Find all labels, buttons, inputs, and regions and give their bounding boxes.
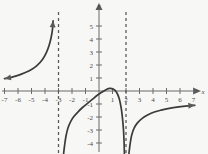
y-tick-label: -2 [87,114,93,122]
function-graph-figure: -7 -6 -5 -4 -3 -2 -1 1 2 3 4 5 6 7 5 4 3… [0,0,208,154]
x-tick-label: 7 [192,96,196,104]
x-tick-label: -6 [15,96,21,104]
curve-arrow-icon [50,21,56,28]
y-tick-label: -4 [87,140,93,148]
curve-left-branch [5,21,54,79]
x-tick-label: 6 [178,96,182,104]
x-axis-label: x [200,88,205,96]
x-tick-label: -5 [29,96,35,104]
x-tick-label: -2 [69,96,75,104]
y-tick-label: 5 [90,23,94,31]
x-tick-label: 5 [165,96,169,104]
y-tick-label: 3 [90,49,94,57]
curve-right-branch [129,105,195,153]
x-tick-label: -7 [2,96,8,104]
x-tick-label: -4 [42,96,48,104]
graph-canvas: -7 -6 -5 -4 -3 -2 -1 1 2 3 4 5 6 7 5 4 3… [0,0,208,154]
x-tick-label: 1 [111,96,115,104]
x-tick-label: 4 [151,96,155,104]
y-tick-label: -3 [87,127,93,135]
y-tick-label: 2 [90,62,94,70]
curve-arrow-icon [5,74,12,80]
y-tick-label: 1 [90,75,94,83]
x-axis-arrow-icon [193,88,201,95]
y-axis-tick-labels: 5 4 3 2 1 -1 -2 -3 -4 [87,23,93,148]
x-tick-label: 3 [138,96,142,104]
curve-group [5,21,195,154]
y-tick-label: 4 [90,36,94,44]
